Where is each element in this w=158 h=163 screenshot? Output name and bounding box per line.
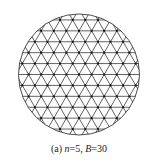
figure-caption: (a) n=5, B=30 bbox=[0, 143, 158, 154]
caption-b-value: =30 bbox=[91, 143, 107, 154]
caption-prefix: (a) bbox=[51, 143, 65, 154]
caption-n-value: =5, bbox=[70, 143, 86, 154]
mesh-lines bbox=[0, 0, 158, 140]
triangular-mesh-diagram bbox=[0, 0, 158, 140]
